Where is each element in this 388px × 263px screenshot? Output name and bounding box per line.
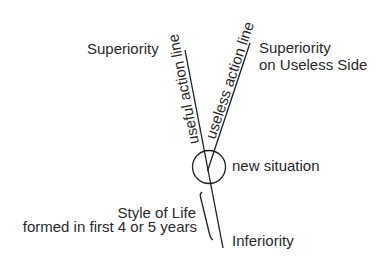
superiority-useless-label-line1: Superiority xyxy=(259,39,331,56)
useful-action-line-label: useful action line xyxy=(164,33,202,146)
superiority-label: Superiority xyxy=(87,40,159,57)
style-of-life-label-line2: formed in first 4 or 5 years xyxy=(23,218,197,235)
style-of-life-bracket xyxy=(200,192,213,240)
superiority-useless-label-line2: on Useless Side xyxy=(259,56,367,73)
inferiority-label: Inferiority xyxy=(232,232,294,249)
useless-action-line-label: useless action line xyxy=(202,19,257,141)
adler-diagram: Superiority Superiority on Useless Side … xyxy=(0,0,388,263)
new-situation-label: new situation xyxy=(232,157,320,174)
